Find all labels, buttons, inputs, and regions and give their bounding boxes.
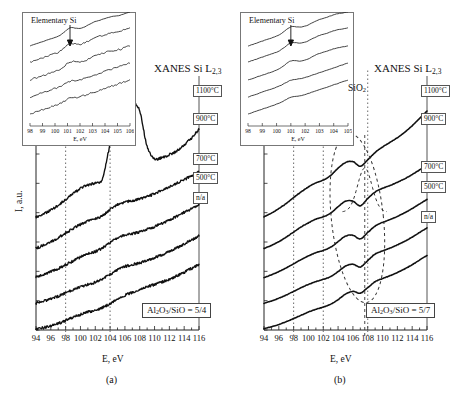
svg-text:104: 104 <box>332 333 346 343</box>
svg-text:98: 98 <box>27 128 33 134</box>
svg-text:106: 106 <box>126 128 134 134</box>
svg-text:105: 105 <box>113 128 122 134</box>
svg-text:112: 112 <box>163 333 175 343</box>
panel-a-title-text: XANES Si L <box>154 62 212 74</box>
svg-text:114: 114 <box>406 333 419 343</box>
svg-text:94: 94 <box>32 333 41 343</box>
sio2-annotation: SiO2 <box>348 84 366 94</box>
svg-text:116: 116 <box>421 333 433 343</box>
svg-text:110: 110 <box>148 333 160 343</box>
svg-text:99: 99 <box>259 128 265 134</box>
series-label-b-900: 900°C <box>421 113 446 125</box>
svg-text:108: 108 <box>133 333 146 343</box>
svg-text:99: 99 <box>40 128 46 134</box>
svg-text:102: 102 <box>89 333 102 343</box>
series-label-a-1100: 1100°C <box>193 85 222 97</box>
x-axis-label-a: E, eV <box>102 355 124 365</box>
svg-text:96: 96 <box>275 333 284 343</box>
svg-text:112: 112 <box>391 333 403 343</box>
series-label-b-500: 500°C <box>421 181 446 193</box>
svg-text:98: 98 <box>245 128 251 134</box>
svg-text:100: 100 <box>272 128 281 134</box>
svg-text:101: 101 <box>63 128 72 134</box>
panel-b-title-sub: 2,3 <box>432 67 441 76</box>
svg-text:103: 103 <box>88 128 97 134</box>
panel-a-title: XANES Si L2,3 <box>152 62 223 76</box>
inset-b-plot: 9899100101102103104105E, eV <box>240 12 352 144</box>
svg-text:104: 104 <box>330 128 339 134</box>
svg-text:100: 100 <box>74 333 87 343</box>
svg-text:106: 106 <box>119 333 132 343</box>
svg-text:103: 103 <box>315 128 324 134</box>
comp-a-post: /SiO = 5/4 <box>169 305 207 315</box>
svg-text:100: 100 <box>302 333 315 343</box>
sio2-pre: SiO <box>348 83 363 93</box>
x-axis-label-b: E, eV <box>330 355 352 365</box>
composition-b: Al2O3/SiO = 5/7 <box>366 303 435 318</box>
inset-a-annotation: Elementary Si <box>30 16 78 25</box>
comp-b-post: /SiO = 5/7 <box>393 305 431 315</box>
svg-text:102: 102 <box>76 128 85 134</box>
svg-text:E, eV: E, eV <box>73 136 87 142</box>
svg-text:105: 105 <box>344 128 352 134</box>
svg-text:116: 116 <box>193 333 205 343</box>
series-label-b-700: 700°C <box>421 161 446 173</box>
comp-b-pre: Al <box>371 305 380 315</box>
svg-text:102: 102 <box>301 128 310 134</box>
series-label-a-na: n/a <box>193 192 208 204</box>
figure-root: 949698100102104106108110112114116 989910… <box>0 0 465 403</box>
series-label-a-700: 700°C <box>193 153 218 165</box>
series-label-a-500: 500°C <box>193 172 218 184</box>
inset-b-annotation: Elementary Si <box>248 16 296 25</box>
series-label-b-na: n/a <box>421 211 436 223</box>
svg-text:100: 100 <box>51 128 60 134</box>
panel-a-caption: (a) <box>106 375 117 385</box>
panel-a-title-sub: 2,3 <box>212 67 221 76</box>
comp-a-pre: Al <box>147 305 156 315</box>
svg-text:E, eV: E, eV <box>291 136 305 142</box>
composition-a: Al2O3/SiO = 5/4 <box>142 303 211 318</box>
svg-text:94: 94 <box>260 333 269 343</box>
y-axis-label-a: I, a.u. <box>14 190 24 212</box>
svg-text:114: 114 <box>178 333 191 343</box>
panel-b-title-text: XANES Si L <box>374 62 432 74</box>
sio2-sub: 2 <box>363 86 366 93</box>
svg-text:106: 106 <box>347 333 360 343</box>
svg-text:96: 96 <box>47 333 56 343</box>
inset-a-plot: 9899100101102103104105106E, eV <box>22 12 134 144</box>
svg-text:110: 110 <box>376 333 388 343</box>
panel-b-title: XANES Si L2,3 <box>372 62 443 76</box>
svg-text:101: 101 <box>287 128 296 134</box>
svg-text:104: 104 <box>101 128 110 134</box>
panel-b-caption: (b) <box>334 375 346 385</box>
series-label-b-1100: 1100°C <box>421 85 450 97</box>
series-label-a-900: 900°C <box>193 113 218 125</box>
